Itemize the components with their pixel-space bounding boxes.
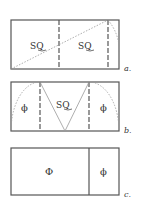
caption: c. — [124, 190, 131, 199]
diagram-a: SQ SQ a. — [11, 20, 131, 73]
region-label: SQ — [56, 100, 70, 110]
region-label: ϕ — [100, 102, 107, 113]
region-label: Φ — [45, 166, 53, 177]
region-label: SQ — [30, 41, 44, 51]
arc — [108, 20, 119, 58]
region-label: ϕ — [21, 102, 28, 113]
golden-ratio-diagrams: SQ SQ a. ϕ SQ ϕ b. Φ ϕ c. — [0, 0, 141, 211]
diagram-c: Φ ϕ c. — [11, 148, 131, 199]
region-label: SQ — [78, 41, 92, 51]
caption: b. — [124, 126, 132, 135]
caption: a. — [124, 64, 131, 73]
rect-a — [11, 20, 119, 69]
diagram-b: ϕ SQ ϕ b. — [11, 82, 132, 135]
region-label: ϕ — [100, 166, 107, 177]
